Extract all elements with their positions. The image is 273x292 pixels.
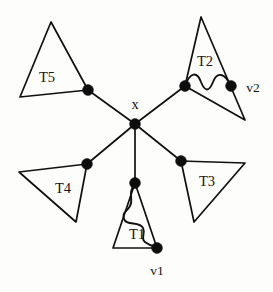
label-t3: T3 [199,173,215,189]
node-v1 [152,243,163,254]
node-v2 [226,81,237,92]
node-t2-root [180,81,191,92]
label-t1: T1 [129,226,145,242]
node-t5-root [83,85,94,96]
label-t5: T5 [39,69,55,85]
triangle-t4 [19,164,87,222]
triangle-t2 [185,17,245,120]
node-t1-root [130,178,141,189]
label-t4: T4 [55,180,72,196]
edge-x-to-t4 [87,124,135,164]
label-v2: v2 [246,80,260,95]
node-t4-root [82,159,93,170]
label-x: x [131,96,139,112]
edge-x-to-t5 [88,90,135,124]
node-t3-root [176,156,187,167]
diagram-canvas: x T5 T2 T4 T3 T1 v1 v2 [0,0,273,292]
triangle-t5 [20,22,88,97]
label-v1: v1 [150,263,164,278]
node-x [130,119,141,130]
triangle-t3 [181,161,245,222]
edge-x-to-t2 [135,86,185,124]
curve-t2-wave [185,75,231,90]
edge-x-to-t3 [135,124,181,161]
label-t2: T2 [197,53,213,69]
graph-diagram-svg: x T5 T2 T4 T3 T1 v1 v2 [0,0,273,292]
